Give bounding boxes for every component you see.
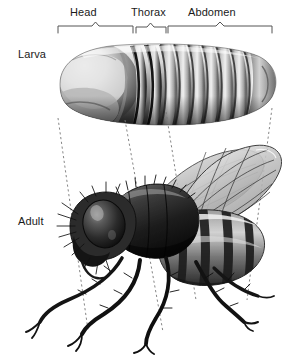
region-brackets [58, 22, 272, 33]
stage-label-adult: Adult [18, 215, 44, 227]
region-label-abdomen: Abdomen [188, 6, 236, 18]
stage-label-larva: Larva [18, 48, 46, 60]
bracket-thorax [136, 23, 166, 33]
insect-anatomy-figure: Head Thorax Abdomen Larva Adult [0, 0, 293, 358]
region-label-thorax: Thorax [131, 6, 166, 18]
region-label-head: Head [70, 6, 97, 18]
bracket-abdomen [168, 22, 272, 33]
bracket-head [58, 22, 133, 33]
larva-illustration [50, 42, 290, 130]
adult-fly-illustration [26, 145, 282, 354]
